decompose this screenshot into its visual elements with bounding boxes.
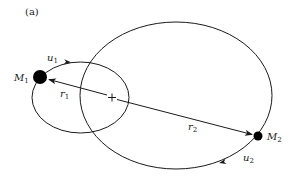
orbit-m2 bbox=[80, 22, 272, 169]
center-of-mass-marker bbox=[108, 94, 116, 102]
radius-vector-r2 bbox=[117, 100, 252, 135]
panel-label: (a) bbox=[25, 6, 39, 17]
velocity-arrow-u1-icon bbox=[64, 59, 71, 64]
two-body-orbit-diagram: (a) M1 u1 r1 r2 M2 u2 bbox=[0, 0, 296, 182]
mass-m1 bbox=[33, 70, 47, 84]
label-m2: M2 bbox=[266, 131, 282, 144]
label-r1: r1 bbox=[60, 88, 69, 101]
label-m1: M1 bbox=[13, 72, 29, 85]
label-u1: u1 bbox=[47, 52, 58, 65]
label-u2: u2 bbox=[243, 152, 254, 165]
label-r2: r2 bbox=[188, 121, 197, 134]
mass-m2 bbox=[254, 132, 263, 141]
radius-vector-r1 bbox=[49, 80, 107, 96]
